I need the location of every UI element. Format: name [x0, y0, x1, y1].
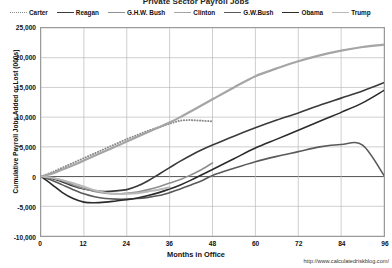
y-axis-title: Cumulative Payroll Jobs Added or Lost (0…	[12, 47, 19, 197]
source-url: http://www.calculatedriskblog.com/	[304, 258, 390, 264]
x-tick-label: 48	[209, 240, 216, 247]
x-tick-label: 96	[381, 240, 388, 247]
chart-container: Private Sector Payroll Jobs CarterReagan…	[0, 0, 392, 268]
x-tick-label: 60	[252, 240, 259, 247]
x-tick-label: 36	[166, 240, 173, 247]
x-axis-tick-labels: 01224364860728496	[0, 0, 392, 268]
x-tick-label: 0	[38, 240, 42, 247]
x-tick-label: 24	[123, 240, 130, 247]
x-tick-label: 72	[295, 240, 302, 247]
x-tick-label: 12	[79, 240, 86, 247]
x-tick-label: 84	[338, 240, 345, 247]
